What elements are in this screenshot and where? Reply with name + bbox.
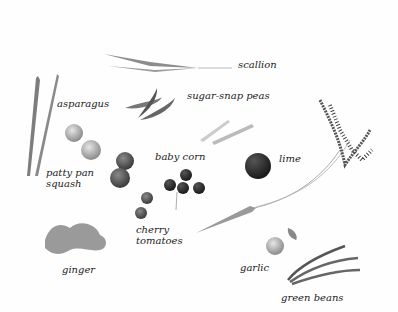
label-patty-pan-squash: patty pan squash [46, 167, 94, 189]
asparagus-image [27, 74, 59, 176]
label-cherry-tomatoes-line2: tomatoes [136, 235, 183, 246]
vegetable-illustration: scallion asparagus sugar-snap peas baby … [0, 0, 398, 312]
label-lime: lime [279, 153, 301, 164]
sugar-snap-peas-image [125, 88, 175, 120]
label-cherry-tomatoes: cherry tomatoes [136, 224, 183, 246]
label-garlic: garlic [240, 262, 269, 273]
label-patty-pan-line1: patty pan [46, 167, 94, 178]
label-patty-pan-line2: squash [46, 178, 94, 189]
label-baby-corn: baby corn [155, 151, 205, 162]
ginger-image [45, 223, 106, 254]
baby-corn-image [200, 120, 254, 145]
carrot-image [196, 100, 372, 233]
lime-image [245, 153, 271, 179]
label-asparagus: asparagus [57, 98, 109, 109]
label-cherry-tomatoes-line1: cherry [136, 224, 183, 235]
green-beans-image [288, 246, 360, 284]
label-scallion: scallion [238, 59, 277, 70]
label-green-beans: green beans [281, 292, 344, 303]
label-sugar-snap-peas: sugar-snap peas [187, 90, 270, 101]
garlic-image [266, 228, 297, 255]
label-ginger: ginger [62, 264, 95, 275]
patty-pan-squash-image [65, 124, 101, 160]
cherry-tomatoes-image [110, 152, 205, 219]
scallion-image [104, 54, 232, 72]
